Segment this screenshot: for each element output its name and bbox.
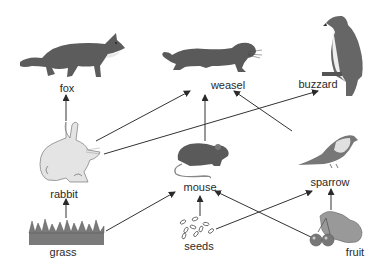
- arrow-fruit-to-mouse: [215, 191, 313, 238]
- node-label-fox: fox: [60, 82, 75, 94]
- node-label-mouse: mouse: [183, 181, 216, 193]
- arrow-rabbit-to-weasel: [96, 91, 190, 141]
- node-label-weasel: weasel: [211, 79, 245, 91]
- sparrow-icon: [298, 135, 358, 168]
- fox-icon: [20, 33, 125, 77]
- food-web-graphics: [0, 0, 383, 267]
- arrow-grass-to-mouse: [106, 192, 175, 231]
- food-web-diagram: fox weasel buzzard rabbit mouse sparrow …: [0, 0, 383, 267]
- node-label-seeds: seeds: [184, 240, 213, 252]
- node-label-buzzard: buzzard: [298, 78, 337, 90]
- fruit-icon: [310, 212, 362, 247]
- arrow-seeds-to-sparrow: [216, 191, 312, 229]
- node-label-rabbit: rabbit: [50, 188, 78, 200]
- weasel-icon: [162, 43, 262, 72]
- mouse-icon: [175, 143, 229, 178]
- arrow-rabbit-to-buzzard: [104, 91, 318, 154]
- grass-icon: [29, 219, 104, 245]
- arrow-sparrow-to-weasel: [234, 91, 292, 131]
- node-label-grass: grass: [50, 246, 77, 258]
- node-label-sparrow: sparrow: [310, 176, 349, 188]
- rabbit-icon: [40, 122, 100, 182]
- node-label-fruit: fruit: [346, 246, 364, 258]
- seeds-icon: [180, 216, 215, 239]
